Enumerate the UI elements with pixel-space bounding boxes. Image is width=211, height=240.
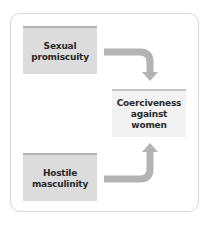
node-label: Coerciveness against women — [117, 98, 182, 131]
node-sexual-promiscuity: Sexual promiscuity — [23, 26, 97, 74]
node-label: Hostile masculinity — [32, 168, 88, 190]
node-coerciveness-against-women: Coerciveness against women — [112, 89, 186, 137]
node-label: Sexual promiscuity — [31, 41, 89, 63]
node-hostile-masculinity: Hostile masculinity — [23, 153, 97, 201]
